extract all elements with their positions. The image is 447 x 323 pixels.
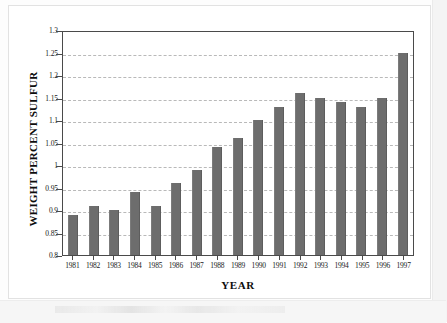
x-axis-tick-label: 1986 — [166, 261, 187, 270]
x-axis-tick-mark — [300, 256, 301, 260]
x-axis-tick-mark — [341, 256, 342, 260]
bar — [253, 120, 263, 255]
x-axis-tick-label: 1988 — [207, 261, 228, 270]
x-axis-tick-mark — [320, 256, 321, 260]
x-axis-tick-mark — [72, 256, 73, 260]
x-axis-tick-label: 1991 — [269, 261, 290, 270]
x-axis-tick-label: 1982 — [83, 261, 104, 270]
x-axis-tick-label: 1992 — [290, 261, 311, 270]
bar — [336, 102, 346, 255]
x-axis-tick-mark — [93, 256, 94, 260]
y-axis-tick-label: 1.3 — [28, 27, 58, 35]
bar — [130, 192, 140, 255]
bar — [315, 98, 325, 256]
bar — [398, 53, 408, 256]
x-axis-tick-label: 1985 — [145, 261, 166, 270]
bar — [377, 98, 387, 256]
x-axis-tick-label: 1984 — [124, 261, 145, 270]
x-axis-tick-label: 1997 — [393, 261, 414, 270]
x-axis-tick-mark — [237, 256, 238, 260]
x-axis-tick-marks — [62, 256, 414, 260]
x-axis-tick-mark — [155, 256, 156, 260]
x-axis-title: YEAR — [62, 279, 414, 291]
x-axis-tick-mark — [134, 256, 135, 260]
x-axis-tick-label: 1989 — [228, 261, 249, 270]
bar-series — [63, 32, 413, 255]
bar — [151, 206, 161, 256]
x-axis-tick-mark — [196, 256, 197, 260]
x-axis-tick-label: 1987 — [186, 261, 207, 270]
x-axis-tick-mark — [403, 256, 404, 260]
bar — [356, 107, 366, 256]
plot-area — [62, 31, 414, 256]
bar — [212, 147, 222, 255]
y-axis-title: WEIGHT PERCENT SULFUR — [27, 37, 39, 262]
x-axis-tick-label: 1990 — [248, 261, 269, 270]
x-axis-tick-labels: 1981198219831984198519861987198819891990… — [62, 261, 414, 270]
x-axis-tick-label: 1981 — [62, 261, 83, 270]
x-axis-tick-mark — [279, 256, 280, 260]
bar — [233, 138, 243, 255]
x-axis-tick-label: 1996 — [373, 261, 394, 270]
bar — [89, 206, 99, 256]
x-axis-tick-mark — [382, 256, 383, 260]
x-axis-tick-mark — [113, 256, 114, 260]
bar — [192, 170, 202, 256]
x-axis-tick-label: 1994 — [331, 261, 352, 270]
bar — [68, 215, 78, 256]
x-axis-tick-label: 1983 — [103, 261, 124, 270]
bar — [109, 210, 119, 255]
x-axis-tick-mark — [258, 256, 259, 260]
bar — [295, 93, 305, 255]
x-axis-tick-label: 1995 — [352, 261, 373, 270]
x-axis-tick-mark — [362, 256, 363, 260]
x-axis-tick-label: 1993 — [310, 261, 331, 270]
bar — [171, 183, 181, 255]
bar — [274, 107, 284, 256]
x-axis-tick-mark — [217, 256, 218, 260]
x-axis-tick-mark — [175, 256, 176, 260]
